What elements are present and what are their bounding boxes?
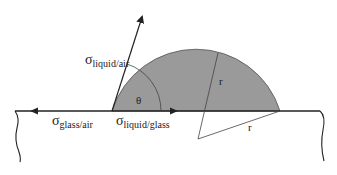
label-radius-1: r	[219, 75, 223, 87]
label-radius-2: r	[248, 121, 252, 133]
glass-break-right	[320, 111, 324, 161]
label-sigma-liquid-glass: σliquid/glass	[116, 113, 170, 130]
label-sigma-glass-air: σglass/air	[52, 113, 94, 130]
label-sigma-liquid-air: σliquid/air	[85, 52, 130, 69]
glass-break-left	[15, 111, 20, 162]
radius-line-2	[198, 111, 280, 139]
label-theta: θ	[136, 94, 141, 106]
contact-angle-diagram: σliquid/air σglass/air σliquid/glass θ r…	[0, 0, 337, 175]
arrow-glass-air-icon	[30, 108, 38, 115]
